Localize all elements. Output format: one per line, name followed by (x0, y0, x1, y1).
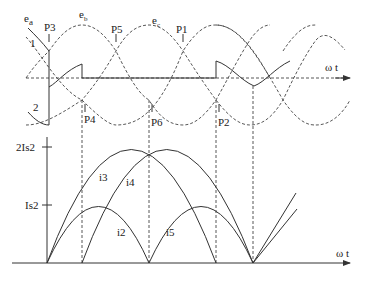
label-p6: P6 (151, 116, 163, 128)
label-i5: i5 (166, 226, 175, 238)
phase-wave-eb (26, 25, 270, 125)
output-segment-2 (216, 61, 290, 86)
current-i3 (47, 150, 216, 264)
label-p4: P4 (84, 113, 96, 125)
current-i4 (82, 150, 253, 264)
output-segment-1 (49, 64, 82, 87)
label-2is2: 2Is2 (16, 141, 35, 153)
label-p3: P3 (44, 21, 56, 33)
label-ec: ec (152, 14, 160, 29)
label-curve-2: 2 (33, 101, 39, 113)
label-p2: P2 (218, 116, 230, 128)
label-i3: i3 (99, 171, 108, 183)
phase-wave-ea (26, 25, 350, 125)
bottom-axis-label: ω t (336, 247, 349, 259)
label-i2: i2 (117, 226, 126, 238)
label-i4: i4 (126, 176, 135, 188)
top-panel: ea eb ec 1 2 P3 P5 P1 P4 P6 P2 ω t (24, 8, 350, 263)
top-axis-label: ω t (325, 61, 338, 73)
current-i5 (149, 207, 253, 264)
current-rise-1 (253, 193, 296, 263)
label-is2: Is2 (25, 199, 38, 211)
phase-wave-ec (26, 25, 345, 125)
current-rise-2 (253, 209, 297, 263)
label-curve-1: 1 (30, 37, 36, 49)
label-eb: eb (79, 8, 88, 23)
current-i2 (47, 207, 149, 264)
label-p1: P1 (176, 23, 188, 35)
label-p5: P5 (111, 23, 123, 35)
label-ea: ea (24, 12, 33, 27)
bottom-panel: 2Is2 Is2 i3 i4 i2 i5 ω t (12, 137, 350, 263)
waveform-diagram: ea eb ec 1 2 P3 P5 P1 P4 P6 P2 ω t 2Is2 … (0, 0, 366, 283)
